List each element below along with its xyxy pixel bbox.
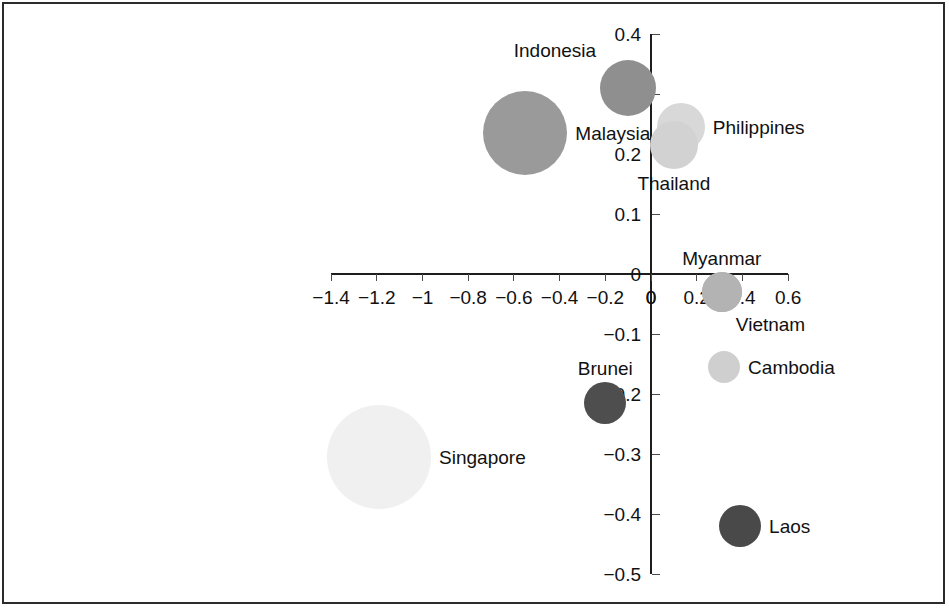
x-tick-label: −1.4: [312, 288, 350, 307]
y-origin-label: 0: [630, 265, 641, 284]
bubble-label-indonesia: Indonesia: [514, 41, 596, 60]
x-tick-label: −0.8: [449, 288, 487, 307]
y-tick-label: 0.2: [615, 145, 641, 164]
x-tick: [376, 274, 377, 281]
x-tick-label: −0.6: [495, 288, 533, 307]
y-tick: [652, 574, 660, 575]
bubble-label-myanmar: Myanmar: [682, 249, 761, 268]
bubble-singapore[interactable]: [327, 405, 431, 509]
bubble-malaysia[interactable]: [483, 91, 567, 175]
x-tick-label: 0.6: [775, 288, 801, 307]
y-tick-label: −0.3: [603, 445, 641, 464]
bubble-chart-figure: −1.4−1.2−1−0.8−0.6−0.4−0.200.20.40.60.40…: [0, 0, 949, 608]
x-tick-label: −0.2: [587, 288, 625, 307]
x-tick-label: −1: [412, 288, 434, 307]
y-tick-label: 0.4: [615, 25, 641, 44]
y-tick-label: −0.4: [603, 505, 641, 524]
bubble-label-laos: Laos: [769, 517, 810, 536]
bubble-brunei[interactable]: [584, 382, 626, 424]
x-tick-label: −0.4: [541, 288, 579, 307]
y-tick: [652, 34, 660, 35]
y-tick-label: −0.5: [603, 565, 641, 584]
bubble-laos[interactable]: [719, 505, 761, 547]
x-tick: [468, 274, 469, 281]
bubble-label-philippines: Philippines: [713, 118, 805, 137]
x-tick: [513, 274, 514, 281]
bubble-label-brunei: Brunei: [578, 359, 633, 378]
plot-area: −1.4−1.2−1−0.8−0.6−0.4−0.200.20.40.60.40…: [0, 0, 949, 608]
bubble-label-singapore: Singapore: [439, 448, 526, 467]
x-tick: [331, 274, 332, 281]
x-tick: [788, 274, 789, 281]
y-tick-label: 0.1: [615, 205, 641, 224]
x-tick: [651, 274, 652, 281]
bubble-label-thailand: Thailand: [637, 174, 710, 193]
y-tick: [652, 334, 660, 335]
y-tick: [652, 454, 660, 455]
y-tick: [652, 214, 660, 215]
y-tick: [652, 514, 660, 515]
x-tick: [559, 274, 560, 281]
bubble-thailand[interactable]: [650, 121, 698, 169]
bubble-vietnam[interactable]: [702, 272, 742, 312]
x-tick: [696, 274, 697, 281]
x-tick: [605, 274, 606, 281]
x-tick: [422, 274, 423, 281]
bubble-label-malaysia: Malaysia: [575, 124, 650, 143]
bubble-label-vietnam: Vietnam: [736, 315, 805, 334]
x-origin-label: 0: [646, 288, 657, 307]
bubble-indonesia[interactable]: [600, 60, 656, 116]
bubble-label-cambodia: Cambodia: [748, 358, 835, 377]
y-tick-label: −0.1: [603, 325, 641, 344]
x-tick: [742, 274, 743, 281]
y-tick: [652, 394, 660, 395]
bubble-cambodia[interactable]: [708, 351, 740, 383]
x-tick-label: −1.2: [358, 288, 396, 307]
